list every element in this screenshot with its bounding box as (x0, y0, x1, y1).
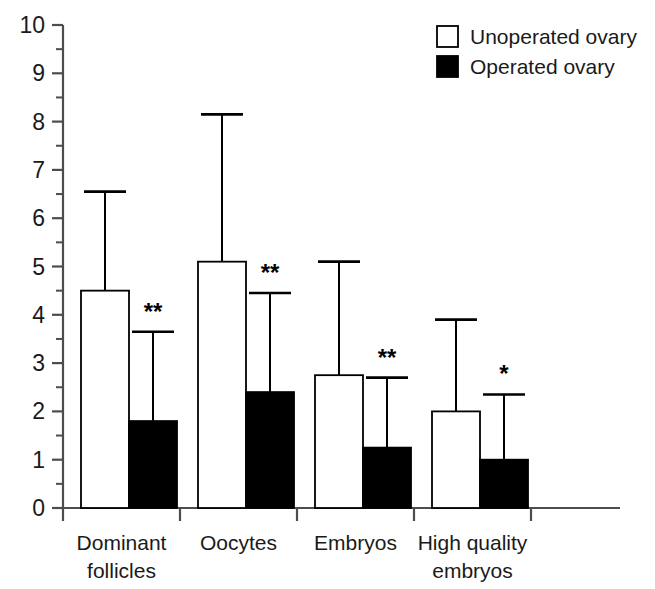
y-axis-tick-label: 4 (32, 302, 45, 328)
y-axis-tick-label: 7 (32, 157, 45, 183)
bar-unoperated-ovary-1 (198, 262, 246, 508)
y-axis-tick-label: 0 (32, 495, 45, 521)
bar-group-0-series-0 (81, 192, 129, 508)
bar-group-1-series-0 (198, 114, 246, 508)
bar-operated-ovary-3 (480, 460, 528, 508)
significance-marker-2: ** (378, 344, 397, 371)
y-axis-tick-label: 5 (32, 254, 45, 280)
y-axis-tick-label: 3 (32, 350, 45, 376)
bar-operated-ovary-1 (246, 392, 294, 508)
bar-unoperated-ovary-3 (432, 411, 480, 508)
x-axis-category-label-0: Dominant (77, 531, 167, 554)
x-axis-category-label-2: Embryos (314, 531, 397, 554)
y-axis-tick-label: 9 (32, 60, 45, 86)
bar-unoperated-ovary-2 (315, 375, 363, 508)
significance-marker-3: * (499, 360, 509, 387)
legend-swatch-open-square (437, 26, 458, 47)
significance-marker-1: ** (261, 259, 280, 286)
bar-operated-ovary-0 (129, 421, 177, 508)
legend-label-1: Operated ovary (470, 55, 615, 78)
bar-group-2-series-0 (315, 262, 363, 508)
bar-operated-ovary-2 (363, 448, 411, 508)
y-axis-tick-label: 2 (32, 398, 45, 424)
x-axis-category-label-3: High quality (418, 531, 528, 554)
legend-swatch-filled-square (437, 56, 458, 77)
y-axis-tick-label: 8 (32, 109, 45, 135)
x-axis-category-label-3: embryos (432, 559, 513, 582)
x-axis-category-label-1: Oocytes (200, 531, 277, 554)
legend-label-0: Unoperated ovary (470, 25, 637, 48)
chart-canvas: 012345678910*******DominantfolliclesOocy… (0, 0, 655, 589)
y-axis-tick-label: 6 (32, 205, 45, 231)
bar-unoperated-ovary-0 (81, 291, 129, 508)
y-axis-tick-label: 10 (19, 12, 45, 38)
y-axis-tick-label: 1 (32, 447, 45, 473)
bar-group-2-series-1: ** (363, 344, 411, 508)
bar-group-3-series-0 (432, 320, 480, 508)
bar-group-0-series-1: ** (129, 298, 177, 508)
significance-marker-0: ** (144, 298, 163, 325)
x-axis-category-label-0: follicles (87, 559, 156, 582)
bar-chart-figure: 012345678910*******DominantfolliclesOocy… (0, 0, 655, 589)
bar-group-1-series-1: ** (246, 259, 294, 508)
bar-group-3-series-1: * (480, 360, 528, 508)
